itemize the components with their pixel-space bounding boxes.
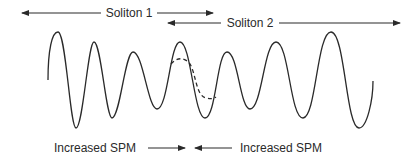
- soliton1-span-arrow: Soliton 1: [22, 6, 213, 20]
- increased-spm-right-label: Increased SPM: [240, 141, 322, 155]
- increased-spm-left-label: Increased SPM: [54, 141, 136, 155]
- soliton2-span-arrow: Soliton 2: [168, 16, 400, 30]
- soliton2-label: Soliton 2: [227, 16, 274, 30]
- waveform: [48, 32, 373, 128]
- dashed-overlay-curve: [171, 59, 216, 99]
- soliton-diagram: Soliton 1 Soliton 2 Increased SPM Increa…: [0, 0, 417, 164]
- soliton1-label: Soliton 1: [106, 6, 153, 20]
